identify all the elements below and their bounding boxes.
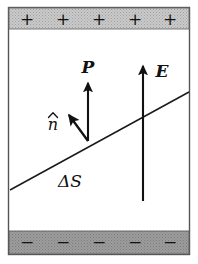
label-P: P — [81, 57, 96, 77]
plus-symbol: + — [92, 9, 106, 29]
figure-canvas: + + + + + − − − − − P E n ΔS — [0, 0, 198, 264]
minus-symbol: − — [128, 232, 142, 252]
minus-symbol: − — [92, 232, 106, 252]
plus-symbol: + — [163, 9, 177, 29]
minus-symbol: − — [56, 232, 70, 252]
slab-background — [9, 8, 190, 255]
plus-symbol: + — [128, 9, 142, 29]
plus-symbol: + — [20, 9, 34, 29]
label-delta-s: ΔS — [57, 171, 82, 191]
dielectric-polarization-figure: + + + + + − − − − − P E n ΔS — [0, 0, 198, 264]
positive-charge-band: + + + + + — [9, 8, 189, 29]
minus-symbol: − — [20, 232, 34, 252]
minus-symbol: − — [163, 232, 177, 252]
negative-charge-band: − − − − − — [9, 231, 189, 254]
label-n-hat: n — [48, 113, 58, 134]
plus-symbol: + — [56, 9, 70, 29]
label-E: E — [155, 61, 170, 81]
label-n-hat-letter: n — [48, 115, 58, 134]
